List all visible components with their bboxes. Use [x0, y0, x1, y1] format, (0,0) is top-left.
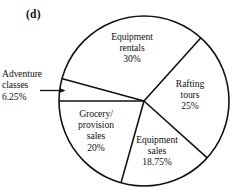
slice-label-line: Equipment — [96, 31, 168, 42]
slice-value: 20% — [65, 142, 127, 153]
slice-label-line: Adventure — [2, 68, 62, 79]
slice-label-equipment-sales: Equipment sales 18.75% — [122, 134, 192, 168]
slice-value: 25% — [164, 100, 216, 111]
slice-label-equipment-rentals: Equipment rentals 30% — [96, 31, 168, 65]
slice-label-rafting-tours: Rafting tours 25% — [164, 78, 216, 112]
slice-value: 6.25% — [2, 91, 62, 102]
slice-label-line: provision — [65, 119, 127, 130]
slice-label-grocery-provision-sales: Grocery/ provision sales 20% — [65, 108, 127, 153]
slice-label-line: classes — [2, 79, 62, 90]
slice-label-adventure-classes: Adventure classes 6.25% — [2, 68, 62, 102]
slice-value: 18.75% — [122, 156, 192, 167]
slice-label-line: Rafting — [164, 78, 216, 89]
slice-label-line: tours — [164, 89, 216, 100]
slice-label-line: rentals — [96, 42, 168, 53]
slice-label-line: Grocery/ — [65, 108, 127, 119]
slice-label-line: sales — [65, 130, 127, 141]
slice-value: 30% — [96, 53, 168, 64]
slice-label-line: Equipment — [122, 134, 192, 145]
pie-chart-figure: (d) Equipment rentals 30% Rafting tours … — [0, 0, 238, 193]
slice-label-line: sales — [122, 145, 192, 156]
